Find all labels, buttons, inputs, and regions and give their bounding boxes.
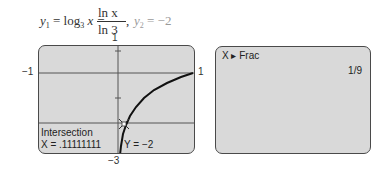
ymin-label: −3 [108,155,119,166]
x-readout: X = .11111111 [41,139,101,150]
y2-definition: y2 = −2 [134,13,171,30]
log-text: = log [50,13,80,28]
xmin-label: −1 [22,66,33,77]
home-screen: X ▸ Frac 1/9 [215,46,371,154]
y-readout: Y = −2 [124,139,153,150]
comma: , [126,13,129,29]
intersection-title: Intersection [41,127,93,138]
graph-screen: Intersection X = .11111111 Y = −2 [38,45,195,154]
home-result: 1/9 [348,65,362,76]
ymax-label: 1 [112,32,118,43]
fraction-numerator: ln x [98,5,118,21]
xmax-label: 1 [198,66,204,77]
y2-value: = −2 [144,13,172,28]
home-command: X ▸ Frac [222,50,259,61]
y1-definition: y1 = log3 x = [40,13,105,30]
